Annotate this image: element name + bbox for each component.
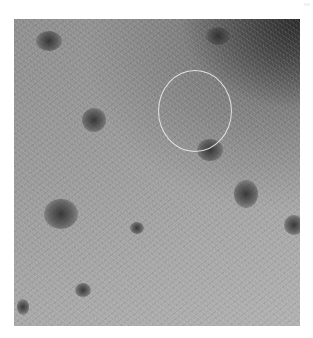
corner-mark <box>304 3 310 6</box>
dark-spot <box>234 180 258 208</box>
dark-spot <box>17 299 29 315</box>
dark-spot <box>36 31 62 51</box>
dark-spot <box>82 108 106 132</box>
annotation-circle <box>158 70 232 152</box>
skin-photo <box>14 19 300 326</box>
skin-texture <box>14 19 300 326</box>
dark-spot <box>75 283 91 297</box>
dark-spot <box>44 199 78 229</box>
dark-spot <box>206 27 230 45</box>
dark-spot <box>130 222 144 234</box>
dark-spot <box>284 215 300 235</box>
